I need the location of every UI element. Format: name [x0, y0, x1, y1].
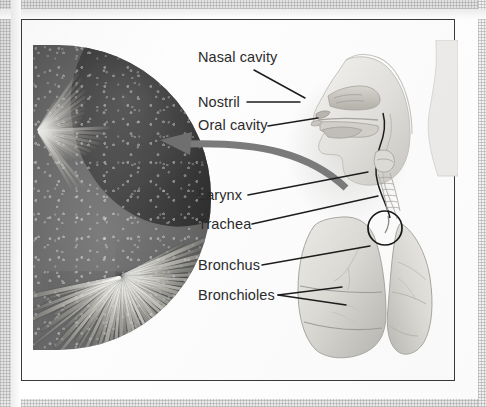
- leader-line-oral-cavity: [268, 118, 318, 126]
- label-oral-cavity: Oral cavity: [198, 118, 268, 133]
- leader-line-trachea: [252, 196, 378, 224]
- label-nasal-cavity: Nasal cavity: [198, 50, 277, 65]
- leader-line-nasal-cavity: [254, 70, 305, 98]
- leader-line-bronchioles-lower: [278, 295, 346, 305]
- scanned-figure-page: Nasal cavity Nostril Oral cavity Larynx …: [0, 0, 486, 407]
- label-bronchioles: Bronchioles: [198, 288, 275, 303]
- label-nostril: Nostril: [198, 95, 240, 110]
- leader-line-bronchioles-upper: [278, 287, 342, 295]
- label-trachea: Trachea: [198, 217, 251, 232]
- leader-line-bronchus: [262, 246, 370, 265]
- leader-line-larynx: [248, 172, 368, 195]
- label-bronchus: Bronchus: [198, 258, 260, 273]
- label-larynx: Larynx: [198, 188, 242, 203]
